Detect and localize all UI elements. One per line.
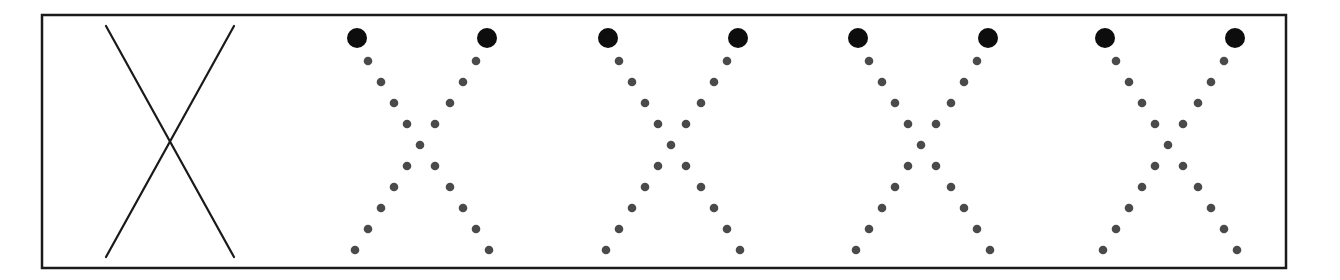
right-diagonal-dot — [1220, 57, 1229, 66]
left-diagonal-dot — [1138, 99, 1147, 108]
dotted-x-pattern-3 — [848, 28, 998, 254]
right-diagonal-dot — [736, 246, 745, 255]
start-dot-right — [728, 28, 748, 48]
left-diagonal-dot — [1099, 246, 1108, 255]
right-diagonal-dot — [446, 183, 455, 192]
left-diagonal-dot — [641, 183, 650, 192]
right-diagonal-dot — [472, 57, 481, 66]
center-dot — [1164, 141, 1173, 150]
right-diagonal-dot — [1194, 183, 1203, 192]
right-diagonal-dot — [485, 246, 494, 255]
left-diagonal-dot — [602, 246, 611, 255]
left-diagonal-dot — [641, 99, 650, 108]
left-diagonal-dot — [891, 99, 900, 108]
left-diagonal-dot — [891, 183, 900, 192]
left-diagonal-dot — [403, 120, 412, 129]
right-diagonal-dot — [1207, 78, 1216, 87]
right-diagonal-dot — [960, 204, 969, 213]
start-dot-right — [477, 28, 497, 48]
left-diagonal-dot — [351, 246, 360, 255]
left-diagonal-dot — [865, 225, 874, 234]
center-dot — [667, 141, 676, 150]
left-diagonal-dot — [390, 99, 399, 108]
right-diagonal-dot — [960, 78, 969, 87]
left-diagonal-dot — [615, 57, 624, 66]
right-diagonal-dot — [723, 57, 732, 66]
right-diagonal-dot — [1179, 162, 1188, 171]
right-diagonal-dot — [459, 78, 468, 87]
left-diagonal-dot — [1138, 183, 1147, 192]
left-diagonal-dot — [364, 57, 373, 66]
right-diagonal-dot — [446, 99, 455, 108]
start-dot-left — [598, 28, 618, 48]
start-dot-left — [347, 28, 367, 48]
left-diagonal-dot — [852, 246, 861, 255]
left-diagonal-dot — [1125, 204, 1134, 213]
right-diagonal-dot — [682, 120, 691, 129]
right-diagonal-dot — [1179, 120, 1188, 129]
left-diagonal-dot — [390, 183, 399, 192]
right-diagonal-dot — [973, 57, 982, 66]
left-diagonal-dot — [377, 204, 386, 213]
right-diagonal-dot — [932, 120, 941, 129]
center-dot — [416, 141, 425, 150]
x-pattern-diagram — [0, 0, 1340, 280]
left-diagonal-dot — [1125, 78, 1134, 87]
left-diagonal-dot — [628, 78, 637, 87]
dotted-x-pattern-1 — [347, 28, 497, 254]
right-diagonal-dot — [1207, 204, 1216, 213]
left-diagonal-dot — [878, 78, 887, 87]
dotted-x-pattern-2 — [598, 28, 748, 254]
left-diagonal-dot — [615, 225, 624, 234]
right-diagonal-dot — [710, 204, 719, 213]
left-diagonal-dot — [878, 204, 887, 213]
start-dot-left — [1095, 28, 1115, 48]
left-diagonal-dot — [1112, 57, 1121, 66]
left-diagonal-dot — [1151, 162, 1160, 171]
start-dot-right — [1225, 28, 1245, 48]
left-diagonal-dot — [364, 225, 373, 234]
right-diagonal-dot — [973, 225, 982, 234]
start-dot-right — [978, 28, 998, 48]
right-diagonal-dot — [431, 120, 440, 129]
right-diagonal-dot — [723, 225, 732, 234]
left-diagonal-dot — [628, 204, 637, 213]
center-dot — [917, 141, 926, 150]
right-diagonal-dot — [1233, 246, 1242, 255]
solid-x-icon — [106, 26, 234, 257]
right-diagonal-dot — [697, 99, 706, 108]
right-diagonal-dot — [459, 204, 468, 213]
right-diagonal-dot — [472, 225, 481, 234]
left-diagonal-dot — [377, 78, 386, 87]
left-diagonal-dot — [654, 162, 663, 171]
diagram-frame — [42, 15, 1286, 268]
right-diagonal-dot — [682, 162, 691, 171]
right-diagonal-dot — [697, 183, 706, 192]
left-diagonal-dot — [904, 162, 913, 171]
right-diagonal-dot — [1194, 99, 1203, 108]
start-dot-left — [848, 28, 868, 48]
right-diagonal-dot — [986, 246, 995, 255]
left-diagonal-dot — [904, 120, 913, 129]
left-diagonal-dot — [654, 120, 663, 129]
right-diagonal-dot — [431, 162, 440, 171]
left-diagonal-dot — [1112, 225, 1121, 234]
right-diagonal-dot — [710, 78, 719, 87]
right-diagonal-dot — [1220, 225, 1229, 234]
right-diagonal-dot — [947, 99, 956, 108]
left-diagonal-dot — [1151, 120, 1160, 129]
right-diagonal-dot — [947, 183, 956, 192]
dotted-x-pattern-4 — [1095, 28, 1245, 254]
dotted-x-group — [347, 28, 1245, 254]
left-diagonal-dot — [403, 162, 412, 171]
left-diagonal-dot — [865, 57, 874, 66]
right-diagonal-dot — [932, 162, 941, 171]
